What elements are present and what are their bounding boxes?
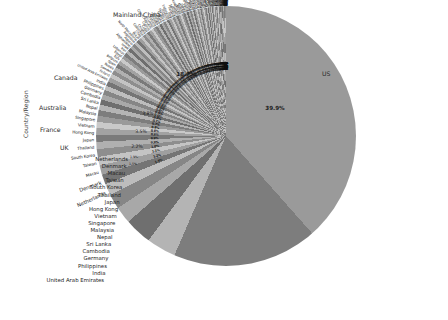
slice-label-left: Japan xyxy=(0,199,120,205)
slice-label: Bhutan xyxy=(224,0,227,6)
slice-label-left: Netherlands xyxy=(0,156,128,162)
slice-percent-uk: 1.9% xyxy=(130,155,138,159)
slice-label-left: India xyxy=(0,270,106,276)
slice-label-left: Sri Lanka xyxy=(0,241,111,247)
leader-label-us: US xyxy=(322,70,330,77)
slice-label-left: Denmark xyxy=(0,163,127,169)
slice-label: Hong Kong xyxy=(72,131,94,136)
slice-label-left: Thailand xyxy=(0,192,121,198)
slice-percent: 0.0% xyxy=(224,62,227,70)
slice-percent-netherlands: 1.5% xyxy=(129,162,137,166)
leader-label-uk: UK xyxy=(60,144,69,151)
slice-label-left: Philippines xyxy=(0,263,107,269)
chart-canvas: Country/Region NetherlandsDenmarkMacauTa… xyxy=(0,0,448,320)
slice-label-left: Taiwan xyxy=(0,177,124,183)
leader-label-mainland-china: Mainland China xyxy=(113,11,161,18)
leader-label-france: France xyxy=(40,126,61,133)
slice-label-left: Germany xyxy=(0,255,108,261)
slice-percent: 0.8% xyxy=(151,133,159,136)
slice-label-left: United Arab Emirates xyxy=(0,277,104,283)
slice-label-left: Singapore xyxy=(0,220,115,226)
slice-label-left: Vietnam xyxy=(0,213,117,219)
slice-label-left: Cambodia xyxy=(0,248,110,254)
leader-label-canada: Canada xyxy=(54,74,78,81)
slice-percent: 0.9% xyxy=(151,141,159,145)
slice-percent: 0.9% xyxy=(151,137,159,140)
slice-label-left: South Korea xyxy=(0,184,122,190)
leader-label-australia: Australia xyxy=(39,104,66,111)
slice-label-left: Nepal xyxy=(0,234,113,240)
slice-percent-australia: 3.5% xyxy=(135,129,147,134)
y-axis-label: Country/Region xyxy=(22,90,29,138)
slice-label-left: Malaysia xyxy=(0,227,114,233)
slice-percent-france: 2.2% xyxy=(131,144,143,149)
slice-label: Thailand xyxy=(77,146,94,151)
slice-percent-canada: 3.8% xyxy=(142,111,154,116)
slice-percent-mainland-china: 18.7% xyxy=(176,71,195,77)
slice-label-left: Macau xyxy=(0,170,125,176)
slice-label: Japan xyxy=(83,138,94,142)
slice-label: Vietnam xyxy=(78,123,95,129)
slice-label-left: Hong Kong xyxy=(0,206,118,212)
slice-percent-ring: 1.3%1.2%1.1%1.0%0.9%0.9%0.8%0.8%0.8%0.7%… xyxy=(96,6,356,266)
slice-percent-us: 39.9% xyxy=(265,105,284,111)
slice-percent: 0.8% xyxy=(151,130,159,134)
slice-percent: 1.3% xyxy=(154,159,162,165)
